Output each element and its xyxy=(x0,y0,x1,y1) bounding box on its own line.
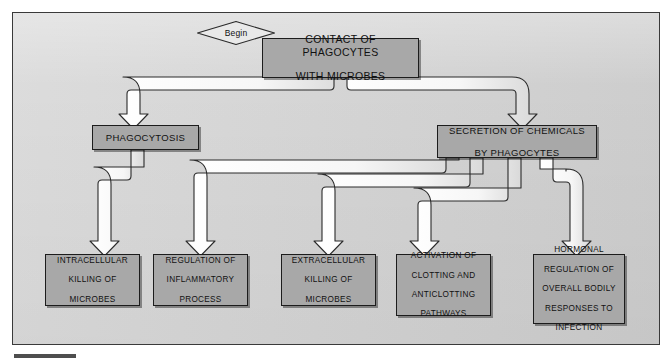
node-contact-of-phagocytes-with-microbes[interactable]: CONTACT OF PHAGOCYTES WITH MICROBES xyxy=(262,38,419,78)
node-label-line-2: INFLAMMATORY xyxy=(162,275,238,285)
node-label: REGULATION OF INFLAMMATORY PROCESS xyxy=(159,256,241,304)
node-regulation-of-inflammatory-process[interactable]: REGULATION OF INFLAMMATORY PROCESS xyxy=(153,254,248,306)
node-label: SECRETION OF CHEMICALS BY PHAGOCYTES xyxy=(443,125,591,159)
node-extracellular-killing-of-microbes[interactable]: EXTRACELLULAR KILLING OF MICROBES xyxy=(281,254,376,306)
node-label-line-1: ACTIVATION OF xyxy=(408,251,479,261)
node-label-line-1: CONTACT OF PHAGOCYTES xyxy=(266,33,415,58)
begin-marker: Begin xyxy=(196,20,276,46)
node-label-line-3: PROCESS xyxy=(162,295,238,305)
node-label-line-1: EXTRACELLULAR xyxy=(289,256,369,266)
node-hormonal-regulation-of-overall-bodily-responses-to-infection[interactable]: HORMONAL REGULATION OF OVERALL BODILY RE… xyxy=(533,254,625,324)
begin-label: Begin xyxy=(225,28,248,38)
connector-start-to-phagocytosis xyxy=(119,77,347,129)
node-label-line-1: REGULATION OF xyxy=(162,256,238,266)
node-label-line-2: BY PHAGOCYTES xyxy=(446,147,588,158)
node-intracellular-killing-of-microbes[interactable]: INTRACELLULAR KILLING OF MICROBES xyxy=(45,254,140,306)
node-label-line-1: INTRACELLULAR xyxy=(54,256,131,266)
node-label: EXTRACELLULAR KILLING OF MICROBES xyxy=(286,256,372,304)
node-label-line-3: OVERALL BODILY xyxy=(539,284,618,294)
node-label-line-3: ANTICLOTTING xyxy=(408,290,479,300)
connector-start-to-secretion xyxy=(334,77,537,129)
diagram-canvas: Begin CONTACT OF PHAGOCYTES WITH MICROBE… xyxy=(0,0,672,364)
node-phagocytosis[interactable]: PHAGOCYTOSIS xyxy=(92,125,199,150)
node-label-line-2: WITH MICROBES xyxy=(266,70,415,82)
node-label: PHAGOCYTOSIS xyxy=(103,132,188,143)
node-label-line-4: RESPONSES TO xyxy=(539,304,618,314)
node-label-line-3: MICROBES xyxy=(289,295,369,305)
node-label-line-1: SECRETION OF CHEMICALS xyxy=(446,125,588,136)
node-label-line-5: INFECTION xyxy=(539,323,618,333)
node-label-line-1: HORMONAL xyxy=(539,245,618,255)
node-label: ACTIVATION OF CLOTTING AND ANTICLOTTING … xyxy=(405,251,482,319)
node-label-line-2: REGULATION OF xyxy=(539,265,618,275)
node-label: INTRACELLULAR KILLING OF MICROBES xyxy=(51,256,134,304)
node-secretion-of-chemicals-by-phagocytes[interactable]: SECRETION OF CHEMICALS BY PHAGOCYTES xyxy=(437,125,597,158)
connector-secretion-to-hormonal xyxy=(540,158,591,256)
node-activation-of-clotting-and-anticlotting-pathways[interactable]: ACTIVATION OF CLOTTING AND ANTICLOTTING … xyxy=(396,254,491,316)
scan-artifact-bar xyxy=(14,354,76,358)
node-label-line-3: MICROBES xyxy=(54,295,131,305)
node-label-line-4: PATHWAYS xyxy=(408,309,479,319)
node-label-line-2: CLOTTING AND xyxy=(408,271,479,281)
node-label-line-2: KILLING OF xyxy=(54,275,131,285)
node-label-line-2: KILLING OF xyxy=(289,275,369,285)
connector-phagocytosis-to-intracellular xyxy=(90,150,144,256)
node-label: CONTACT OF PHAGOCYTES WITH MICROBES xyxy=(263,33,418,83)
node-label: HORMONAL REGULATION OF OVERALL BODILY RE… xyxy=(536,245,621,332)
